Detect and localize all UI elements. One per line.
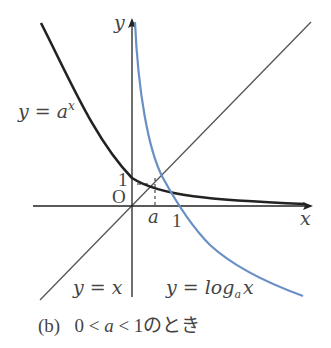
y-one-label: 1 bbox=[118, 169, 128, 190]
a-mark-label: a bbox=[148, 206, 159, 227]
identity-line-label: y = x bbox=[72, 276, 123, 298]
log-curve bbox=[135, 22, 303, 296]
y-axis-label: y bbox=[113, 11, 125, 33]
caption-condition-start: 0 < bbox=[74, 315, 99, 336]
caption-prefix: (b) bbox=[38, 315, 60, 336]
identity-line bbox=[40, 22, 311, 300]
exp-curve bbox=[41, 23, 305, 204]
x-axis-label: x bbox=[300, 207, 311, 229]
exp-curve-label: y = ax bbox=[17, 99, 75, 122]
log-curve-label: y = logax bbox=[165, 276, 254, 301]
caption-suffix: のとき bbox=[143, 315, 200, 336]
function-graph: y x O 1 1 a y = ax y = x y = logax bbox=[0, 0, 331, 348]
caption-variable: a bbox=[104, 315, 114, 336]
x-one-label: 1 bbox=[172, 210, 182, 231]
figure-caption: (b) 0 < a < 1のとき bbox=[38, 310, 200, 337]
caption-condition-end: < 1 bbox=[118, 315, 143, 336]
